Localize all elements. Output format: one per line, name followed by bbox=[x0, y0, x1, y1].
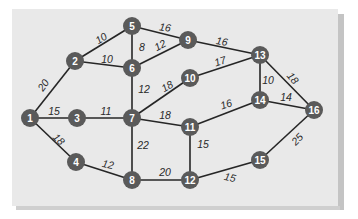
edge-weight-label: 11 bbox=[101, 105, 112, 117]
edge-weight-label: 16 bbox=[158, 20, 171, 34]
node-label: 10 bbox=[184, 73, 196, 84]
node-label: 12 bbox=[184, 175, 196, 186]
edge-weight-label: 16 bbox=[215, 34, 229, 48]
node-label: 6 bbox=[129, 63, 135, 74]
edge-weight-label: 10 bbox=[262, 74, 274, 86]
network-graph: 2015181010111281612121818222016171615151… bbox=[0, 0, 358, 219]
node-5: 5 bbox=[123, 17, 141, 35]
edge-weight-label: 18 bbox=[159, 109, 171, 121]
node-label: 2 bbox=[72, 56, 78, 67]
edge-weight-label: 10 bbox=[101, 53, 113, 65]
node-14: 14 bbox=[251, 91, 269, 109]
edge-weight-label: 12 bbox=[138, 83, 150, 95]
node-label: 3 bbox=[74, 113, 80, 124]
node-10: 10 bbox=[181, 69, 199, 87]
node-label: 7 bbox=[129, 113, 135, 124]
node-label: 1 bbox=[27, 113, 33, 124]
node-7: 7 bbox=[123, 109, 141, 127]
edge-weight-label: 14 bbox=[280, 91, 292, 103]
node-1: 1 bbox=[21, 109, 39, 127]
node-label: 16 bbox=[308, 105, 320, 116]
node-3: 3 bbox=[68, 109, 86, 127]
edge-weight-label: 15 bbox=[48, 105, 60, 117]
node-label: 14 bbox=[254, 95, 266, 106]
edge-weight-label: 20 bbox=[34, 77, 51, 94]
node-label: 11 bbox=[185, 122, 196, 133]
edge-weight-label: 8 bbox=[139, 41, 145, 53]
node-11: 11 bbox=[181, 118, 199, 136]
node-13: 13 bbox=[251, 46, 269, 64]
edge-weight-label: 12 bbox=[101, 157, 115, 171]
edge-weight-label: 15 bbox=[197, 138, 209, 150]
node-label: 13 bbox=[254, 50, 266, 61]
node-8: 8 bbox=[123, 171, 141, 189]
node-16: 16 bbox=[305, 101, 323, 119]
node-12: 12 bbox=[181, 171, 199, 189]
edge-weight-label: 25 bbox=[288, 131, 306, 149]
node-6: 6 bbox=[123, 59, 141, 77]
node-15: 15 bbox=[251, 151, 269, 169]
edge-15-16 bbox=[260, 110, 314, 160]
node-label: 8 bbox=[129, 175, 135, 186]
node-4: 4 bbox=[67, 153, 85, 171]
node-label: 4 bbox=[73, 157, 79, 168]
node-label: 5 bbox=[129, 21, 135, 32]
edge-weight-label: 18 bbox=[159, 78, 175, 94]
node-label: 15 bbox=[254, 155, 266, 166]
edge-weight-label: 18 bbox=[285, 70, 302, 87]
edge-weight-label: 15 bbox=[223, 170, 237, 184]
edge-weight-label: 22 bbox=[136, 139, 149, 151]
edge-weight-label: 16 bbox=[219, 96, 234, 111]
node-9: 9 bbox=[179, 31, 197, 49]
edge-weight-label: 10 bbox=[93, 30, 109, 46]
node-2: 2 bbox=[66, 52, 84, 70]
edge-weight-label: 18 bbox=[51, 131, 68, 148]
edge-weight-label: 20 bbox=[158, 166, 171, 178]
node-label: 9 bbox=[185, 35, 191, 46]
